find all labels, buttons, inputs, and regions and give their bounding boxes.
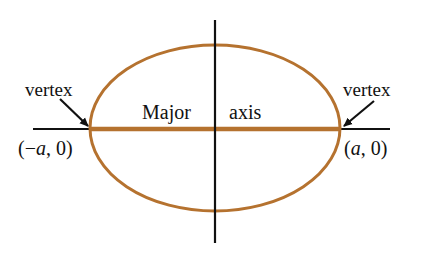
ellipse-diagram: Major axis vertex vertex (−a, 0) (a, 0) <box>0 0 423 261</box>
major-label: Major <box>142 101 191 124</box>
vertex-right-arrow <box>344 101 374 126</box>
vertex-left-label: vertex <box>25 79 73 100</box>
point-pos-a: (a, 0) <box>344 137 387 160</box>
axis-label: axis <box>229 101 261 123</box>
point-neg-a: (−a, 0) <box>18 137 73 160</box>
vertex-right-label: vertex <box>343 79 391 100</box>
vertex-left-arrow <box>60 99 88 126</box>
